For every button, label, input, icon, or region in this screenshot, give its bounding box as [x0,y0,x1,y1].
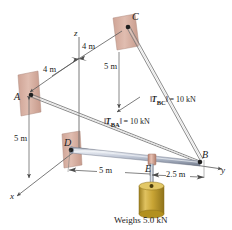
force-label-tba: ‖TBA‖ = 10 kN [104,118,150,128]
leader-tba [117,97,140,112]
figure-vector-graphics [0,0,232,230]
boom-db [69,147,200,166]
cylinder-weight [139,182,164,218]
weight-caption: Weighs 5.0 kN [114,216,168,225]
statics-figure-space-truss: C A D B E z x y 4 m 4 m 5 m 5 m 5 m 2.5 … [0,0,232,230]
force-subscript-tbc: BC [157,99,166,106]
point-label-e: E [145,164,151,174]
norm-bar-close-tba: ‖ [120,117,122,126]
point-label-d: D [64,138,71,148]
point-label-c: C [132,12,139,22]
dim-label-5m-de: 5 m [99,166,112,175]
dim-label-5m-c: 5 m [104,62,117,71]
axis-label-z: z [74,29,78,38]
point-label-b: B [202,150,208,160]
axis-label-x: x [10,192,14,201]
dim-label-2-5m-eb: 2.5 m [166,170,185,179]
force-value-tba: = 10 kN [123,117,149,126]
force-label-tbc: ‖TBC‖ = 10 kN [150,96,196,106]
force-value-tbc: = 10 kN [169,95,195,104]
point-label-a: A [14,92,20,102]
dim-label-4m-c: 4 m [82,42,95,51]
axis-label-y: y [221,166,225,175]
dim-label-4m-a: 4 m [43,65,56,74]
force-subscript-tba: BA [111,121,120,128]
norm-bar-close-tbc: ‖ [166,95,168,104]
dim-label-5m-a: 5 m [14,134,27,143]
cable-bc [127,27,203,160]
